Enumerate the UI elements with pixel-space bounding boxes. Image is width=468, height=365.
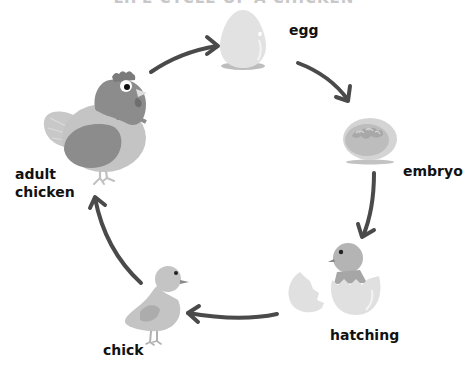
arrow-embryo-to-hatching [358, 173, 374, 237]
arrow-hatching-to-chick [188, 306, 277, 322]
arrow-egg-to-embryo [298, 63, 350, 101]
stage-label-egg: egg [289, 21, 319, 39]
arrow-chick-to-adult [90, 197, 141, 283]
stage-label-embryo: embryo [403, 162, 463, 180]
hatching-icon [288, 243, 380, 315]
stage-label-hatching: hatching [330, 326, 399, 344]
stage-label-adult-chicken: adult chicken [15, 165, 75, 201]
embryo-icon [343, 118, 397, 165]
stage-label-chick: chick [103, 341, 144, 359]
stage-label-adult-line1: adult [15, 165, 75, 183]
stage-label-adult-line2: chicken [15, 183, 75, 201]
egg-icon [220, 10, 266, 70]
arrow-adult-to-egg [151, 37, 218, 72]
